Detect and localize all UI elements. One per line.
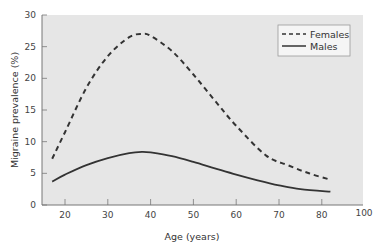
legend-males-label: Males	[310, 41, 338, 52]
x-tick-label-end: 100	[355, 208, 372, 218]
x-tick-label: 40	[145, 210, 157, 220]
x-tick-label: 30	[102, 210, 114, 220]
y-tick-label: 30	[25, 10, 37, 20]
x-tick-label: 80	[316, 210, 328, 220]
y-tick-label: 10	[25, 137, 37, 147]
y-tick-label: 25	[25, 42, 36, 52]
x-tick-label: 70	[273, 210, 285, 220]
chart-svg: 051015202530 20304050607080100 Females M…	[0, 0, 383, 245]
legend-females-label: Females	[310, 29, 349, 40]
y-tick-label: 20	[25, 73, 37, 83]
y-axis-title: Migraine prevalence (%)	[9, 52, 20, 168]
y-tick-label: 15	[25, 105, 36, 115]
x-tick-label: 50	[188, 210, 200, 220]
legend: Females Males	[278, 25, 350, 56]
y-tick-label: 5	[30, 168, 36, 178]
x-tick-label: 60	[230, 210, 242, 220]
x-tick-label: 20	[59, 210, 71, 220]
y-tick-label: 0	[30, 200, 36, 210]
x-axis-title: Age (years)	[165, 231, 220, 242]
